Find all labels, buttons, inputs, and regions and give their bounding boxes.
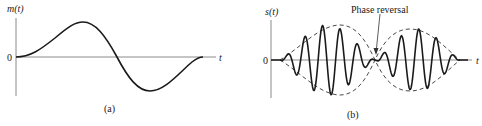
panel-b-xlabel: t bbox=[476, 55, 479, 66]
panel-a-ylabel: m(t) bbox=[7, 3, 24, 15]
panel-a-caption: (a) bbox=[104, 103, 115, 115]
panel-b-zero-label: 0 bbox=[263, 55, 268, 66]
phase-reversal-arrow bbox=[376, 14, 380, 53]
panel-a-xlabel: t bbox=[219, 52, 222, 63]
panel-a-message-signal: m(t) 0 t (a) bbox=[7, 3, 222, 115]
phase-reversal-label: Phase reversal bbox=[351, 4, 409, 15]
panel-a-zero-label: 0 bbox=[7, 52, 12, 63]
panel-b-caption: (b) bbox=[347, 109, 359, 121]
panel-b-modulated-signal: s(t) 0 t Phase reversal (b) bbox=[263, 4, 479, 121]
dsb-sc-figure: m(t) 0 t (a) s(t) 0 t Phase reversal (b) bbox=[0, 0, 482, 126]
lower-envelope bbox=[280, 60, 460, 95]
panel-b-ylabel: s(t) bbox=[265, 6, 279, 18]
